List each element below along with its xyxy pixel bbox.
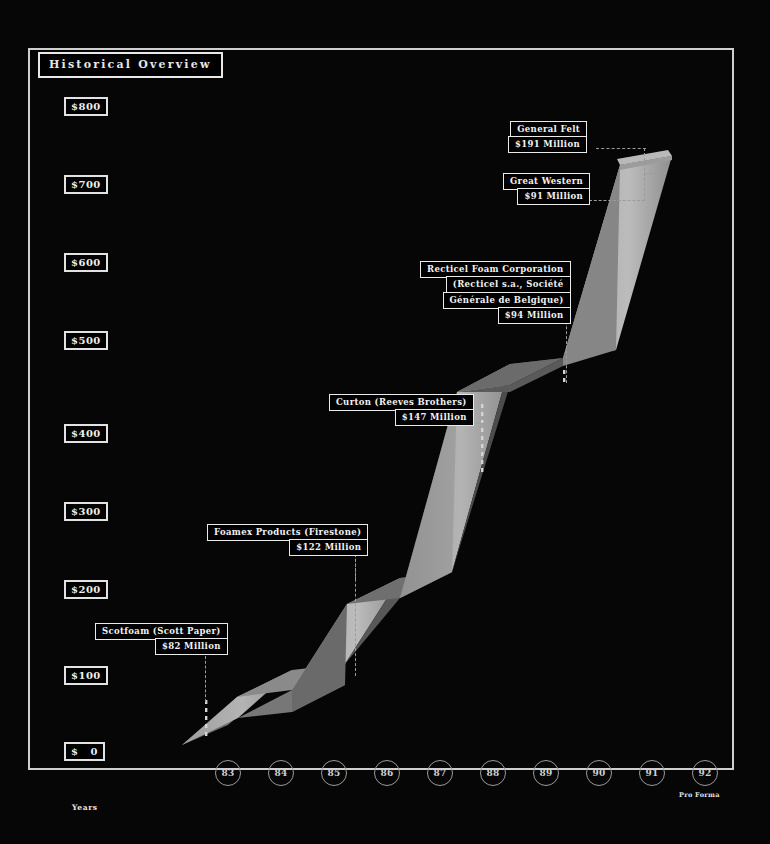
callout-general-felt: General Felt $191 Million: [508, 121, 587, 153]
page-title: Historical Overview: [38, 52, 223, 78]
y-tick-800: $800: [64, 97, 108, 116]
x-tick-84: 84: [268, 760, 294, 786]
x-tick-91: 91: [639, 760, 665, 786]
y-tick-300: $300: [64, 502, 108, 521]
x-axis-title: Years: [72, 803, 98, 812]
callout-curton: Curton (Reeves Brothers) $147 Million: [329, 394, 474, 426]
leader-top-join: [644, 173, 666, 174]
x-tick-83: 83: [215, 760, 241, 786]
y-tick-200: $200: [64, 580, 108, 599]
leader-greatwestern-h: [589, 200, 645, 201]
callout-recticel: Recticel Foam Corporation (Recticel s.a.…: [420, 261, 571, 324]
y-tick-500: $500: [64, 331, 108, 350]
pro-forma-note: Pro Forma: [679, 791, 720, 799]
y-tick-400: $400: [64, 424, 108, 443]
leader-generalfelt-h: [596, 148, 646, 149]
callout-great-western-value: $91 Million: [517, 188, 590, 205]
callout-general-felt-value: $191 Million: [508, 136, 587, 153]
callout-foamex: Foamex Products (Firestone) $122 Million: [207, 524, 368, 556]
chart-canvas: Historical Overview: [0, 0, 770, 844]
x-tick-86: 86: [374, 760, 400, 786]
leader-foamex-v2: [355, 554, 356, 580]
x-tick-85: 85: [321, 760, 347, 786]
y-tick-0: $ 0: [64, 742, 105, 761]
y-tick-600: $600: [64, 253, 108, 272]
y-tick-700: $700: [64, 175, 108, 194]
callout-scotfoam: Scotfoam (Scott Paper) $82 Million: [95, 623, 228, 655]
leader-scotfoam: [205, 656, 206, 702]
callout-foamex-value: $122 Million: [289, 539, 368, 556]
callout-great-western: Great Western $91 Million: [503, 173, 590, 205]
x-tick-88: 88: [480, 760, 506, 786]
x-tick-90: 90: [586, 760, 612, 786]
callout-scotfoam-value: $82 Million: [155, 638, 228, 655]
callout-recticel-value: $94 Million: [498, 307, 571, 324]
callout-curton-value: $147 Million: [395, 409, 474, 426]
y-tick-100: $100: [64, 666, 108, 685]
x-tick-89: 89: [533, 760, 559, 786]
x-tick-92: 92: [692, 760, 718, 786]
x-tick-87: 87: [427, 760, 453, 786]
leader-greatwestern-v: [644, 148, 645, 201]
